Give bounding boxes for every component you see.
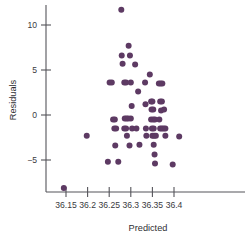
data-point (143, 126, 149, 132)
data-point (142, 80, 148, 86)
data-point (135, 89, 141, 95)
data-point (115, 159, 121, 165)
y-axis-title: Residuals (8, 79, 18, 120)
data-point (123, 126, 129, 132)
x-tick-label: 36.2 (79, 200, 96, 210)
data-point (120, 61, 126, 67)
data-point (133, 126, 139, 132)
y-tick-label: 10 (27, 20, 37, 30)
x-tick-label: 36.35 (142, 200, 164, 210)
data-point (112, 117, 118, 123)
x-tick-label: 36.25 (98, 200, 120, 210)
data-point (61, 185, 67, 191)
data-point (118, 7, 124, 13)
data-point (152, 161, 158, 167)
data-point (151, 142, 157, 148)
data-point (105, 159, 111, 165)
x-tick-group: 36.1536.236.2536.336.3536.4 (55, 187, 182, 210)
data-point (147, 72, 153, 78)
data-point (142, 101, 148, 107)
data-point (159, 99, 165, 105)
data-point (151, 126, 157, 132)
y-tick-label: 0 (32, 110, 37, 120)
chart-canvas: 1050−5 36.1536.236.2536.336.3536.4 Predi… (0, 0, 252, 236)
x-tick-label: 36.15 (55, 200, 77, 210)
data-point (126, 43, 132, 49)
y-tick-label: −5 (27, 155, 37, 165)
y-tick-label: 5 (32, 65, 37, 75)
data-point (143, 133, 149, 139)
data-point (161, 107, 167, 113)
data-point (127, 143, 133, 149)
data-point (176, 134, 182, 140)
data-point (113, 126, 119, 132)
data-point (109, 80, 115, 86)
data-point (132, 62, 138, 68)
data-point (128, 116, 134, 122)
data-point-group (61, 7, 182, 191)
data-point (127, 53, 133, 59)
data-point (153, 133, 159, 139)
data-point (149, 99, 155, 105)
data-point (170, 162, 176, 168)
x-tick-label: 36.3 (122, 200, 139, 210)
scatter-plot-figure: 1050−5 36.1536.236.2536.336.3536.4 Predi… (0, 0, 252, 236)
x-axis-title: Predicted (129, 223, 168, 233)
data-point (162, 126, 168, 132)
data-point (149, 107, 155, 113)
y-tick-group: 1050−5 (27, 20, 51, 165)
data-point (152, 152, 158, 158)
data-point (156, 117, 162, 123)
data-point (159, 81, 165, 87)
data-point (124, 133, 130, 139)
data-point (112, 143, 118, 149)
data-point (162, 133, 168, 139)
x-tick-label: 36.4 (166, 200, 183, 210)
data-point (129, 103, 135, 109)
data-point (128, 80, 134, 86)
data-point (119, 53, 125, 59)
data-point (84, 133, 90, 139)
data-point (136, 142, 142, 148)
